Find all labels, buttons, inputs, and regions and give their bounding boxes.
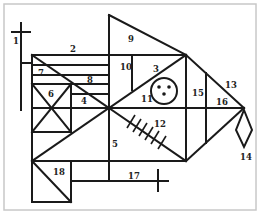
element-9-triangle-hypotenuse xyxy=(109,15,186,55)
label-7: 7 xyxy=(38,68,44,78)
label-4: 4 xyxy=(81,96,87,106)
label-12: 12 xyxy=(154,119,166,129)
label-14: 14 xyxy=(240,152,252,162)
label-18: 18 xyxy=(53,167,65,177)
element-14-diamond xyxy=(236,110,252,147)
label-8: 8 xyxy=(87,75,93,85)
label-2: 2 xyxy=(70,44,76,54)
label-5: 5 xyxy=(112,139,118,149)
label-11: 11 xyxy=(141,94,153,104)
element-17-line-with-cross xyxy=(71,170,168,191)
label-15: 15 xyxy=(192,88,204,98)
label-9: 9 xyxy=(128,34,134,44)
element-18-square-with-diagonal xyxy=(32,161,71,202)
diagram-figure: 1 2 3 4 5 6 7 8 9 10 11 12 13 14 15 16 1… xyxy=(0,0,259,213)
label-10: 10 xyxy=(120,62,132,72)
element-11-circle-with-dots xyxy=(151,78,177,104)
label-1: 1 xyxy=(13,36,19,46)
element-12-hatched-diagonal xyxy=(109,108,186,161)
label-6: 6 xyxy=(48,89,54,99)
label-13: 13 xyxy=(225,80,237,90)
label-16: 16 xyxy=(216,97,228,107)
label-17: 17 xyxy=(128,171,140,181)
complex-figure-svg: 1 2 3 4 5 6 7 8 9 10 11 12 13 14 15 16 1… xyxy=(0,0,259,213)
label-3: 3 xyxy=(153,64,159,74)
